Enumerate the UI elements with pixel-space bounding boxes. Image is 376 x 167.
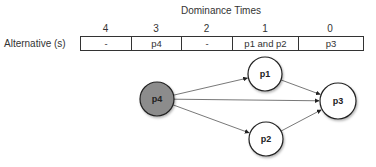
node-p3: p3: [320, 83, 356, 119]
node-p4: p4: [140, 82, 174, 116]
graph-edges: [173, 78, 321, 133]
edge-p4-to-p1: [174, 78, 248, 95]
edge-p4-to-p2: [173, 105, 249, 133]
dominance-graph: p4p1p2p3: [0, 0, 376, 167]
node-label: p1: [260, 69, 271, 79]
edge-p4-to-p3: [174, 99, 319, 101]
node-label: p3: [333, 96, 344, 106]
edge-p1-to-p3: [281, 80, 320, 95]
node-p2: p2: [249, 122, 283, 156]
edge-p2-to-p3: [281, 110, 321, 131]
node-label: p2: [261, 134, 272, 144]
node-label: p4: [152, 94, 163, 104]
graph-nodes: p4p1p2p3: [140, 57, 356, 156]
node-p1: p1: [248, 57, 282, 91]
